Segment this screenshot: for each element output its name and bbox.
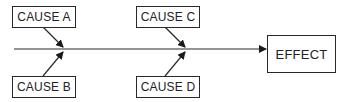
cause-d-arrow	[165, 52, 185, 76]
effect-box: EFFECT	[267, 35, 336, 73]
cause-c-arrow	[165, 27, 185, 47]
cause-d-box: CAUSE D	[136, 76, 200, 98]
cause-c-box: CAUSE C	[136, 6, 200, 28]
cause-b-arrow	[43, 52, 63, 76]
fishbone-diagram: CAUSE A CAUSE B CAUSE C CAUSE D EFFECT	[0, 0, 350, 102]
effect-label: EFFECT	[276, 47, 328, 62]
cause-d-label: CAUSE D	[141, 80, 196, 94]
cause-a-box: CAUSE A	[12, 6, 76, 28]
cause-a-label: CAUSE A	[17, 10, 70, 24]
cause-c-label: CAUSE C	[141, 10, 196, 24]
cause-b-label: CAUSE B	[17, 80, 71, 94]
cause-a-arrow	[43, 27, 63, 47]
cause-b-box: CAUSE B	[12, 76, 76, 98]
